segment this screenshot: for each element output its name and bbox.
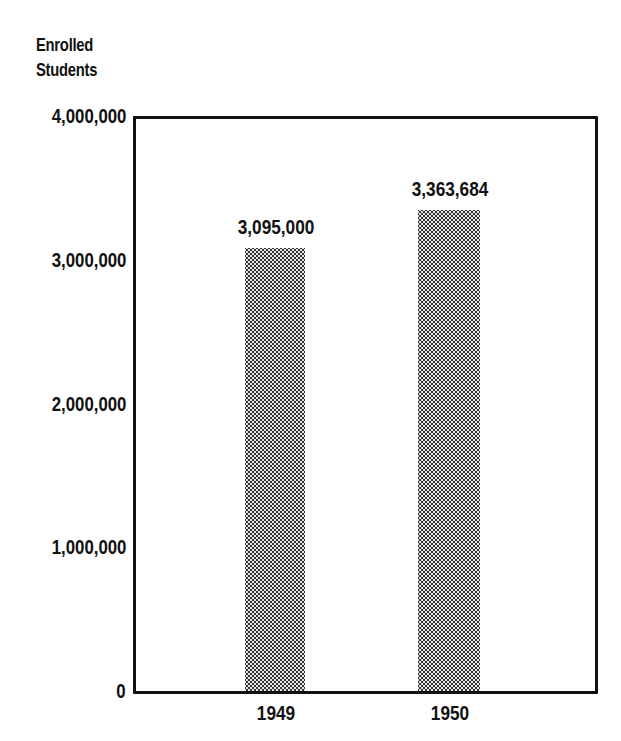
y-tick-2000000: 2,000,000 xyxy=(51,393,126,415)
y-axis-label-line-2: Students xyxy=(36,58,97,83)
y-tick-1000000: 1,000,000 xyxy=(51,536,126,558)
y-axis-label-line-1: Enrolled xyxy=(36,33,97,58)
x-tick-1949: 1949 xyxy=(257,702,295,724)
x-tick-1950: 1950 xyxy=(431,702,469,724)
data-label-1949: 3,095,000 xyxy=(238,216,315,238)
data-label-1950: 3,363,684 xyxy=(412,178,489,200)
y-tick-0: 0 xyxy=(117,680,126,702)
plot-area xyxy=(133,116,598,694)
y-axis-label: Enrolled Students xyxy=(36,33,97,83)
y-tick-3000000: 3,000,000 xyxy=(51,249,126,271)
bar-1950 xyxy=(418,210,480,691)
bar-1949 xyxy=(245,248,305,691)
y-tick-4000000: 4,000,000 xyxy=(51,105,126,127)
